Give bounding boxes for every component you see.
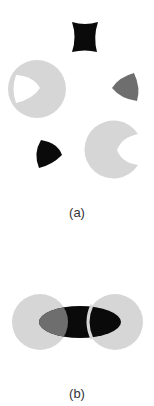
rounded-triangle-gray <box>112 73 138 101</box>
caption-b: (b) <box>0 386 154 401</box>
circle-with-notch-right <box>84 121 138 179</box>
figure-b <box>0 285 154 365</box>
figure-a <box>0 0 154 200</box>
rounded-triangle-black <box>36 140 62 168</box>
concave-spool-shape <box>72 22 98 52</box>
caption-a: (a) <box>0 205 154 220</box>
